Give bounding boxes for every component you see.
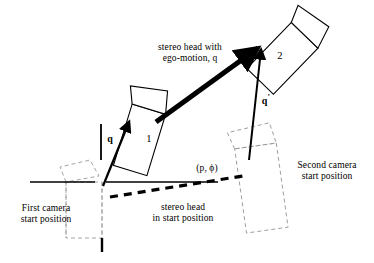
ego-motion-caption-line-1: stereo head with bbox=[140, 42, 240, 53]
second-camera-caption-line-2: start position bbox=[283, 171, 371, 182]
first-camera-caption: First camera start position bbox=[5, 203, 87, 224]
ego-motion-caption: stereo head with ego-motion, q bbox=[140, 42, 240, 63]
start-position-dashed-line bbox=[110, 176, 243, 197]
first-camera-caption-line-2: start position bbox=[5, 214, 87, 225]
pose-pair-label: (p, ϕ) bbox=[186, 163, 228, 174]
first-camera-caption-line-1: First camera bbox=[5, 203, 87, 214]
q-prime-vector-label: q' bbox=[258, 92, 274, 107]
start-position-caption-line-2: in start position bbox=[136, 213, 230, 224]
q-prime-mark: ' bbox=[268, 92, 271, 102]
start-position-caption: stereo head in start position bbox=[136, 202, 230, 223]
start-position-caption-line-1: stereo head bbox=[136, 202, 230, 213]
ego-motion-caption-line-2: ego-motion, q bbox=[140, 53, 240, 64]
camera-one-glyph bbox=[107, 80, 173, 175]
stereo-head-ego-motion-figure: stereo head with ego-motion, q q q' 1 2 … bbox=[0, 0, 374, 263]
camera-two-label: 2 bbox=[274, 50, 286, 62]
second-camera-caption: Second camera start position bbox=[283, 160, 371, 181]
second-camera-caption-line-1: Second camera bbox=[283, 160, 371, 171]
q-vector-label: q bbox=[104, 133, 116, 144]
second-camera-ghost-body bbox=[235, 143, 288, 233]
camera-one-label: 1 bbox=[143, 133, 155, 145]
first-camera-ghost-head bbox=[60, 160, 99, 182]
